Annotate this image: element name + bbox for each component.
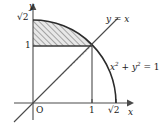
circle-eq-equals: = [141, 62, 154, 72]
line-eq-rhs: x [124, 14, 129, 24]
y-tick-label-one: 1 [25, 41, 31, 50]
x-tick-label-sqrt2: √2 [108, 106, 119, 115]
circle-eq-plus: + [119, 62, 132, 72]
line-eq-operator: = [111, 14, 124, 24]
math-figure: y x O √2 1 1 √2 y = x x2 + y2 = 1 [0, 0, 166, 128]
x-axis-ticks [92, 99, 116, 103]
hatched-sector [33, 20, 92, 103]
y-tick-label-sqrt2: √2 [17, 13, 28, 22]
x-axis-label: x [128, 108, 133, 117]
line-equation-label: y = x [106, 15, 129, 24]
circle-eq-rhs: 1 [154, 62, 160, 72]
origin-label: O [36, 106, 43, 115]
circle-equation-label: x2 + y2 = 1 [110, 62, 160, 72]
x-tick-label-one: 1 [89, 106, 95, 115]
y-axis-label: y [29, 2, 34, 11]
